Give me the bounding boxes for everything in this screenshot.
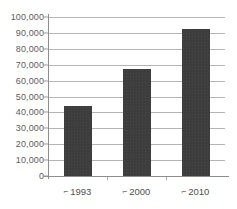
x-axis-category-text: 1993 [70,186,91,197]
y-axis-tick-mark [43,112,48,113]
direction-mark-icon: ⌐ [64,187,69,196]
y-axis-tick-label: 60,000 [16,76,44,85]
y-axis-line [48,14,49,179]
y-axis-tick-mark [43,80,48,81]
y-axis-tick-mark [43,128,48,129]
y-axis-tick-label: 50,000 [16,92,44,101]
bar [64,106,92,176]
y-axis-tick-mark [43,17,48,18]
y-axis-tick-label: 10,000 [16,156,44,165]
y-axis-tick-mark [43,48,48,49]
x-axis-category-text: 2010 [188,186,209,197]
y-axis-tick-mark [43,64,48,65]
x-axis-tick-mark [107,177,108,180]
bar [182,29,210,176]
x-axis-line [44,176,229,177]
y-axis-tick-mark [43,144,48,145]
direction-mark-icon: ⌐ [182,187,187,196]
x-axis-category-text: 2000 [129,186,150,197]
y-axis-tick-label: 20,000 [16,140,44,149]
y-axis-tick-label: 30,000 [16,124,44,133]
gridline [48,17,225,18]
x-axis-tick-label: ⌐2010 [182,186,210,198]
x-axis-tick-label: ⌐1993 [64,186,92,198]
plot-area [48,17,225,176]
y-axis-labels: 100,00090,00080,00070,00060,00050,00040,… [0,0,44,209]
bar [123,69,151,176]
y-axis-tick-label: 90,000 [16,28,44,37]
y-axis-tick-mark [43,96,48,97]
direction-mark-icon: ⌐ [123,187,128,196]
y-axis-tick-mark [43,32,48,33]
x-axis-tick-mark [166,177,167,180]
y-axis-tick-label: 80,000 [16,44,44,53]
y-axis-tick-label: 40,000 [16,108,44,117]
x-axis-tick-label: ⌐2000 [123,186,151,198]
bar-chart: 100,00090,00080,00070,00060,00050,00040,… [0,0,237,209]
y-axis-tick-label: 100,000 [11,13,44,22]
y-axis-tick-mark [43,176,48,177]
y-axis-tick-label: 70,000 [16,60,44,69]
y-axis-tick-mark [43,160,48,161]
